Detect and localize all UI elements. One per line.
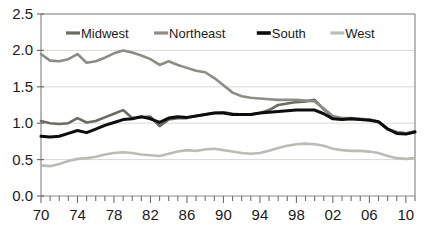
chart-canvas: 0.00.51.01.52.02.57074788286909498020610… — [0, 0, 430, 236]
line-chart: 0.00.51.01.52.02.57074788286909498020610… — [0, 0, 430, 236]
x-tick-label-10: 10 — [398, 206, 415, 223]
legend-item-midwest[interactable]: Midwest — [66, 26, 129, 41]
legend-label-south: South — [272, 26, 306, 41]
x-tick-label-02: 02 — [325, 206, 342, 223]
legend-item-south[interactable]: South — [257, 26, 306, 41]
legend: MidwestNortheastSouthWest — [66, 26, 375, 41]
y-axis: 0.00.51.01.52.02.5 — [12, 5, 44, 204]
legend-item-northeast[interactable]: Northeast — [154, 26, 226, 41]
series-line-west — [41, 144, 415, 167]
y-tick-label-2.0: 2.0 — [12, 41, 33, 58]
x-tick-label-06: 06 — [361, 206, 378, 223]
x-tick-label-90: 90 — [215, 206, 232, 223]
x-tick-label-94: 94 — [252, 206, 269, 223]
x-tick-label-78: 78 — [106, 206, 123, 223]
y-tick-label-2.5: 2.5 — [12, 5, 33, 22]
x-tick-label-70: 70 — [33, 206, 50, 223]
y-tick-label-1.0: 1.0 — [12, 114, 33, 131]
legend-item-west[interactable]: West — [330, 26, 375, 41]
x-axis: 7074788286909498020610 — [33, 196, 415, 223]
y-tick-label-1.5: 1.5 — [12, 78, 33, 95]
legend-label-west: West — [345, 26, 375, 41]
y-tick-label-0.0: 0.0 — [12, 187, 33, 204]
legend-label-midwest: Midwest — [81, 26, 129, 41]
legend-label-northeast: Northeast — [169, 26, 226, 41]
x-tick-label-98: 98 — [288, 206, 305, 223]
series-group — [41, 50, 415, 166]
x-tick-label-86: 86 — [179, 206, 196, 223]
plot-frame — [41, 14, 415, 196]
x-tick-label-82: 82 — [142, 206, 159, 223]
x-tick-label-74: 74 — [69, 206, 86, 223]
y-tick-label-0.5: 0.5 — [12, 151, 33, 168]
